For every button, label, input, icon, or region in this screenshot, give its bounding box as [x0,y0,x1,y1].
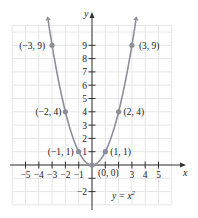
data-point [103,149,108,154]
data-point [76,149,81,154]
y-tick-label: 6 [82,81,87,91]
ticks: −5−4−3−2−1345123456789−2 [20,41,161,197]
y-tick-label: 1 [82,147,87,157]
y-tick-label: 3 [82,121,87,131]
y-tick-label: 8 [82,54,87,64]
x-tick-label: −2 [60,170,70,180]
point-labels: (−3, 9)(−2, 4)(−1, 1)(0, 0)(1, 1)(2, 4)(… [19,41,159,179]
x-tick-label: −1 [74,170,84,180]
point-label: (−2, 4) [35,107,61,118]
data-point [63,109,68,114]
data-point [50,43,55,48]
x-tick-label: 5 [156,170,161,180]
y-tick-label: −2 [77,187,87,197]
y-axis-label: y [83,8,89,19]
equation-exponent: 2 [132,189,136,197]
data-point [89,162,94,167]
x-axis-label: x [182,167,188,178]
y-tick-label: 2 [82,134,87,144]
data-point [129,43,134,48]
y-tick-label: 5 [82,94,87,104]
x-tick-label: 4 [143,170,148,180]
curve-arrow-right-icon [133,16,138,20]
point-label: (2, 4) [124,107,145,118]
point-label: (0, 0) [98,168,119,179]
x-tick-label: −5 [20,170,30,180]
point-label: (3, 9) [139,41,160,52]
x-tick-label: −3 [47,170,57,180]
point-label: (1, 1) [110,147,131,158]
x-tick-label: −4 [34,170,44,180]
curve-arrow-left-icon [46,16,51,20]
point-label: (−3, 9) [19,41,45,52]
data-point [116,109,121,114]
y-tick-label: 4 [82,107,87,117]
y-axis-arrow-icon [90,12,95,18]
x-tick-label: 3 [130,170,135,180]
y-tick-label: 7 [82,67,87,77]
parabola-chart: x y −5−4−3−2−1345123456789−2 (−3, 9)(−2,… [0,0,198,218]
point-label: (−1, 1) [48,147,74,158]
y-tick-label: 9 [82,41,87,51]
